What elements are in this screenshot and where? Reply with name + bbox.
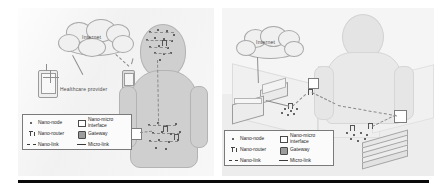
legend-label: Micro-link [88, 142, 109, 147]
nano-micro-interface-right-2 [308, 78, 319, 89]
legend-item-gateway: Gateway [76, 128, 128, 139]
legend-item-micro-link: Micro-link [76, 139, 128, 150]
nano-node-icon [228, 133, 238, 144]
legend-item-gateway: Gateway [278, 144, 330, 155]
legend-label: Micro-link [290, 158, 311, 163]
legend-left: Nano-node Nano-micro interface Nano-rout… [22, 114, 132, 150]
nano-micro-interface-icon [76, 117, 86, 128]
legend-item-nano-router: Nano-router [228, 144, 278, 155]
legend-label: Gateway [290, 147, 309, 152]
nano-router-icon [228, 144, 238, 155]
legend-label: Gateway [88, 131, 107, 136]
legend-item-micro-link: Micro-link [278, 155, 330, 166]
legend-right: Nano-node Nano-micro interface Nano-rout… [224, 130, 334, 166]
legend-item-nano-node: Nano-node [26, 117, 76, 128]
legend-row: Nano-node Nano-micro interface [228, 133, 330, 144]
nano-node-icon [26, 117, 36, 128]
nano-router-icon [26, 128, 36, 139]
legend-label: Nano-micro interface [88, 117, 113, 128]
panel-office-nanonetwork: Internet [222, 8, 434, 176]
legend-row: Nano-node Nano-micro interface [26, 117, 128, 128]
legend-label: Nano-micro interface [290, 133, 315, 144]
internet-cloud-label-left: Internet [82, 34, 101, 40]
legend-label: Nano-router [38, 131, 64, 136]
nano-link-icon [26, 139, 36, 150]
legend-label: Nano-link [38, 142, 59, 147]
legend-label: Nano-link [240, 158, 261, 163]
legend-label: Nano-router [240, 147, 266, 152]
internet-cloud-label-right: Internet [256, 39, 275, 45]
micro-link-icon [278, 155, 288, 166]
legend-label: Nano-node [240, 136, 264, 141]
legend-item-nano-micro-interface: Nano-micro interface [76, 117, 128, 128]
horizontal-rule [18, 180, 429, 183]
legend-label: Nano-node [38, 120, 62, 125]
micro-link-icon [76, 139, 86, 150]
legend-row: Nano-link Micro-link [26, 139, 128, 150]
legend-item-nano-link: Nano-link [26, 139, 76, 150]
legend-row: Nano-router Gateway [228, 144, 330, 155]
legend-item-nano-router: Nano-router [26, 128, 76, 139]
figure-container: Internet Healthcare provider [0, 0, 447, 194]
legend-row: Nano-router Gateway [26, 128, 128, 139]
nano-link-icon [228, 155, 238, 166]
legend-row: Nano-link Micro-link [228, 155, 330, 166]
panel-body-area-nanonetwork: Internet Healthcare provider [18, 8, 214, 176]
legend-item-nano-node: Nano-node [228, 133, 278, 144]
healthcare-provider-label: Healthcare provider [60, 86, 107, 92]
nano-micro-interface-right-1 [394, 110, 407, 123]
gateway-icon [278, 144, 288, 155]
legend-item-nano-link: Nano-link [228, 155, 278, 166]
nano-micro-interface-icon [278, 133, 288, 144]
legend-item-nano-micro-interface: Nano-micro interface [278, 133, 330, 144]
gateway-icon [76, 128, 86, 139]
